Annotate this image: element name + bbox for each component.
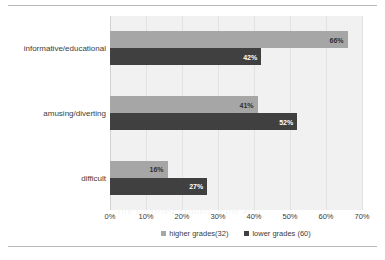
bar-value-label: 52%: [279, 118, 293, 125]
bar-row: 66%: [110, 31, 362, 48]
gridline: [362, 16, 363, 210]
chart-legend: higher grades(32) lower grades (60): [110, 226, 362, 240]
bar-lower-grades[interactable]: 52%: [110, 113, 297, 130]
page-rule-bottom: [8, 246, 377, 247]
category-label: difficult: [2, 173, 106, 182]
page-rule-top: [8, 5, 377, 6]
bar-row: 52%: [110, 113, 362, 130]
x-tick-label: 70%: [354, 212, 369, 221]
legend-item-higher-grades[interactable]: higher grades(32): [161, 229, 228, 238]
x-tick-label: 20%: [174, 212, 189, 221]
bar-chart: 66%42%41%52%16%27% informative/education…: [0, 10, 385, 246]
bar-value-label: 66%: [330, 36, 344, 43]
bar-row: 42%: [110, 48, 362, 65]
bar-lower-grades[interactable]: 27%: [110, 178, 207, 195]
legend-label: higher grades(32): [169, 229, 228, 238]
legend-swatch-icon: [244, 231, 249, 236]
x-tick-label: 30%: [210, 212, 225, 221]
bar-value-label: 41%: [240, 101, 254, 108]
legend-item-lower-grades[interactable]: lower grades (60): [244, 229, 310, 238]
plot-area: 66%42%41%52%16%27%: [110, 16, 362, 210]
x-tick-label: 40%: [246, 212, 261, 221]
bar-value-label: 42%: [243, 53, 257, 60]
legend-label: lower grades (60): [252, 229, 310, 238]
value-axis: 0%10%20%30%40%50%60%70%: [110, 212, 362, 226]
category-label: informative/educational: [2, 44, 106, 53]
bar-row: 27%: [110, 178, 362, 195]
bar-lower-grades[interactable]: 42%: [110, 48, 261, 65]
bar-value-label: 27%: [189, 183, 203, 190]
bar-row: 16%: [110, 161, 362, 178]
bar-higher-grades[interactable]: 66%: [110, 31, 348, 48]
legend-swatch-icon: [161, 231, 166, 236]
category-label: amusing/diverting: [2, 109, 106, 118]
x-tick-label: 60%: [318, 212, 333, 221]
bar-higher-grades[interactable]: 41%: [110, 96, 258, 113]
bar-higher-grades[interactable]: 16%: [110, 161, 168, 178]
x-tick-label: 0%: [105, 212, 116, 221]
bar-row: 41%: [110, 96, 362, 113]
x-tick-label: 50%: [282, 212, 297, 221]
bar-value-label: 16%: [150, 166, 164, 173]
x-tick-label: 10%: [138, 212, 153, 221]
category-axis: informative/educationalamusing/diverting…: [0, 16, 106, 210]
